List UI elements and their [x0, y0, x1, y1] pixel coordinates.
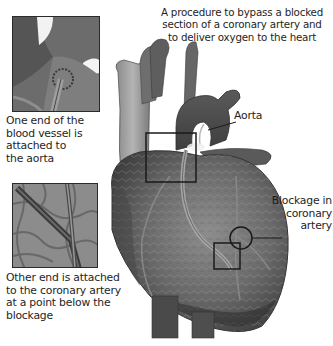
aorta-label: Aorta — [234, 110, 262, 122]
aorta-closeup-image — [13, 17, 100, 112]
diagram-headline: A procedure to bypass a blocked section … — [153, 6, 331, 43]
inset-artery-closeup — [12, 183, 98, 268]
bypass-diagram: One end of the blood vessel is attached … — [0, 0, 333, 346]
inset-aorta-caption: One end of the blood vessel is attached … — [6, 115, 106, 165]
blockage-label: Blockage in coronary artery — [258, 195, 332, 233]
inset-artery-caption: Other end is attached to the coronary ar… — [6, 272, 136, 322]
heart-body — [112, 151, 289, 332]
artery-closeup-image — [13, 184, 98, 268]
inset-aorta-closeup — [12, 16, 100, 112]
